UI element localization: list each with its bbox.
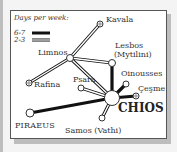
- label-rafina: Rafina: [34, 80, 60, 89]
- label-samos: Samos (Vathi): [65, 126, 121, 135]
- label-lesbos: Lesbos: [115, 41, 143, 50]
- route-limnos-kavala: [70, 24, 100, 58]
- node-piraeus: [26, 109, 34, 117]
- label-oinousses: Oinousses: [121, 69, 162, 78]
- node-lesbos: [109, 60, 116, 67]
- label-lesbos-alt: (Mytilini): [114, 50, 152, 59]
- node-samos: [99, 115, 105, 121]
- label-cesme: Çeşme: [138, 84, 165, 93]
- label-piraeus: PIRAEUS: [15, 121, 55, 130]
- legend-title: Days per week:: [14, 14, 69, 22]
- route-piraeus-chios: [30, 98, 112, 113]
- node-psara: [78, 85, 84, 91]
- label-kavala: Kavala: [106, 15, 133, 24]
- node-limnos: [67, 55, 74, 62]
- label-psara: Psara: [73, 75, 96, 84]
- label-limnos: Limnos: [38, 48, 68, 57]
- label-chios: CHIOS: [118, 104, 164, 113]
- node-oinousses: [123, 81, 129, 87]
- legend-label-2-3: 2-3: [14, 36, 25, 44]
